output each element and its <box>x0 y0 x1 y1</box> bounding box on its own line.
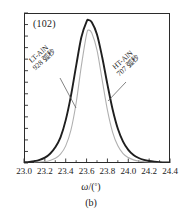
x-tick-label: 24.4 <box>162 166 178 177</box>
x-tick-label: 24.0 <box>120 166 136 177</box>
x-axis-title: ω/(°) <box>0 180 182 193</box>
figure-panel-b: (102) LT-AlN 928 弧秒 HT-AlN 707 弧秒 23.023… <box>0 0 182 217</box>
plot-frame <box>24 13 170 163</box>
x-tick-label: 23.2 <box>37 166 53 177</box>
panel-label: (102) <box>33 18 56 29</box>
x-tick-label: 23.0 <box>16 166 32 177</box>
x-tick-label: 24.2 <box>141 166 157 177</box>
x-tick-label: 23.6 <box>79 166 95 177</box>
x-tick-label: 23.8 <box>100 166 116 177</box>
x-tick-label: 23.4 <box>58 166 74 177</box>
x-tick-label-group: 23.023.223.423.623.824.024.224.4 <box>24 166 170 178</box>
figure-caption: (b) <box>0 197 182 209</box>
x-axis-title-close: ) <box>97 181 100 192</box>
